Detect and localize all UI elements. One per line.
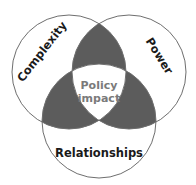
center-label-line1: Policy: [81, 79, 118, 92]
label-power: Power: [143, 35, 176, 77]
venn-diagram: Complexity Power Relationships Policy im…: [0, 0, 196, 185]
center-label-line2: impact: [78, 92, 120, 105]
label-complexity: Complexity: [14, 18, 70, 84]
label-relationships: Relationships: [55, 146, 143, 160]
